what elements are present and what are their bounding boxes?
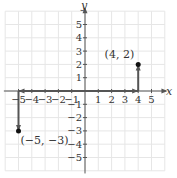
svg-text:4: 4 — [135, 94, 141, 105]
svg-text:3: 3 — [122, 94, 128, 105]
svg-text:3: 3 — [76, 46, 82, 57]
svg-text:2: 2 — [108, 94, 114, 105]
svg-text:−2: −2 — [67, 112, 82, 123]
point-label: (4, 2) — [105, 48, 135, 61]
svg-text:5: 5 — [76, 19, 82, 30]
svg-text:5: 5 — [148, 94, 154, 105]
data-point — [16, 128, 21, 133]
svg-text:−4: −4 — [67, 139, 82, 150]
y-axis-label: y — [80, 0, 88, 12]
data-point — [136, 62, 141, 67]
svg-text:−1: −1 — [67, 99, 82, 110]
point-label: (−5, −3) — [21, 134, 69, 147]
x-axis-label: x — [166, 85, 173, 98]
svg-text:1: 1 — [76, 72, 82, 83]
coordinate-plane: −5−4−3−2−11234554321−1−2−3−4−5 (4, 2)(−5… — [0, 0, 177, 178]
svg-text:4: 4 — [76, 32, 82, 43]
svg-text:2: 2 — [76, 59, 82, 70]
svg-text:−3: −3 — [67, 125, 82, 136]
svg-text:1: 1 — [95, 94, 101, 105]
svg-text:−5: −5 — [67, 152, 82, 163]
